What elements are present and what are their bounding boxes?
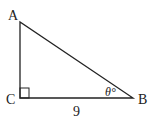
triangle-ABC [20, 22, 133, 98]
vertex-label-b: B [138, 92, 147, 107]
side-length-cb: 9 [73, 104, 80, 119]
triangle-diagram: A C B 9 θ° [0, 0, 155, 120]
vertex-label-a: A [8, 8, 19, 23]
right-angle-marker [20, 88, 29, 98]
vertex-label-c: C [6, 92, 15, 107]
angle-label-b: θ° [105, 85, 116, 99]
